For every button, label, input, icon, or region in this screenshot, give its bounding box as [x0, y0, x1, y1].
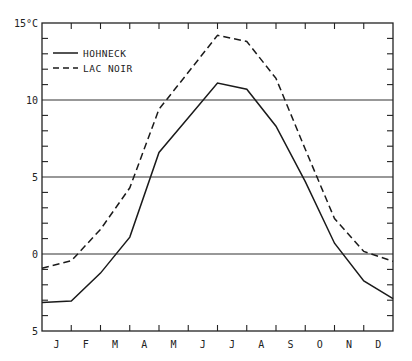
legend: HOHNECKLAC NOIR — [53, 48, 133, 74]
x-axis-labels: JFMAMJJASOND — [54, 339, 382, 350]
x-tick-label: J — [200, 339, 206, 350]
x-tick-label: A — [141, 339, 147, 350]
x-tick-label: J — [54, 339, 60, 350]
x-tick-label: J — [229, 339, 235, 350]
x-tick-label: M — [112, 339, 118, 350]
series-line-hohneck — [42, 83, 393, 302]
x-tick-label: M — [171, 339, 177, 350]
temperature-chart: 15°C10505 JFMAMJJASOND HOHNECKLAC NOIR — [0, 0, 412, 361]
x-tick-label: N — [346, 339, 352, 350]
y-tick-label: 5 — [32, 326, 38, 337]
legend-label: HOHNECK — [83, 48, 127, 59]
y-tick-label: 5 — [32, 172, 38, 183]
x-tick-label: F — [83, 339, 89, 350]
y-tick-label: 0 — [32, 249, 38, 260]
legend-label: LAC NOIR — [83, 63, 133, 74]
y-axis-labels: 15°C10505 — [14, 18, 38, 337]
x-tick-label: O — [317, 339, 323, 350]
gridlines — [42, 100, 393, 254]
x-tick-label: S — [288, 339, 294, 350]
y-tick-label: 15°C — [14, 18, 38, 29]
x-tick-label: A — [258, 339, 264, 350]
y-tick-label: 10 — [26, 95, 38, 106]
series-lines — [42, 35, 393, 302]
x-tick-label: D — [375, 339, 381, 350]
